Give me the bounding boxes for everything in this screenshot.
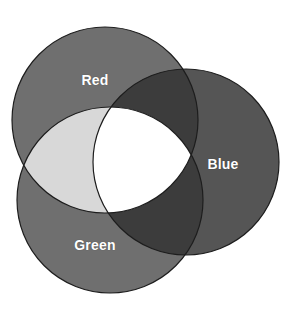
venn-canvas xyxy=(0,0,297,310)
set-label-green: Green xyxy=(74,238,115,252)
set-label-red: Red xyxy=(81,73,108,87)
venn-diagram: Red Blue Green xyxy=(0,0,297,310)
set-label-blue: Blue xyxy=(207,157,238,171)
